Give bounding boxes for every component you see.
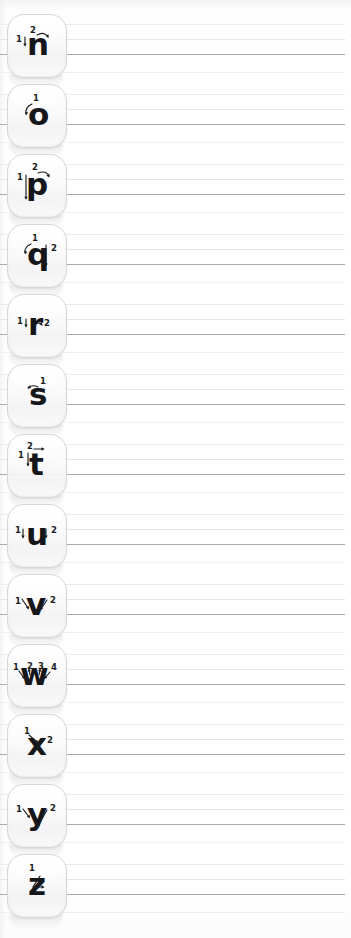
- practice-row-t: t12: [0, 430, 351, 500]
- letter-glyph-t: t12: [7, 434, 65, 496]
- svg-text:1: 1: [15, 596, 21, 606]
- svg-text:1: 1: [15, 525, 21, 535]
- practice-row-u: u12: [0, 500, 351, 570]
- letter-glyph-r: r12: [7, 294, 65, 356]
- svg-text:1: 1: [18, 450, 24, 460]
- svg-text:3: 3: [38, 661, 44, 671]
- practice-row-z: z1: [0, 850, 351, 920]
- practice-row-r: r12: [0, 290, 351, 360]
- svg-text:2: 2: [51, 243, 57, 253]
- svg-text:2: 2: [44, 318, 50, 328]
- practice-row-v: v12: [0, 570, 351, 640]
- svg-text:1: 1: [29, 863, 35, 873]
- letter-glyph-u: u12: [7, 504, 65, 566]
- svg-text:2: 2: [32, 162, 38, 172]
- worksheet-page: n12o1p12q12r12s1t12u12v12w1234x12y12z1: [0, 0, 351, 938]
- svg-text:1: 1: [16, 804, 22, 814]
- practice-row-n: n12: [0, 10, 351, 80]
- svg-text:2: 2: [47, 735, 53, 745]
- practice-row-w: w1234: [0, 640, 351, 710]
- practice-row-s: s1: [0, 360, 351, 430]
- svg-text:1: 1: [33, 93, 39, 103]
- letter-glyph-y: y12: [7, 784, 65, 846]
- letter-glyph-x: x12: [7, 714, 65, 776]
- svg-text:2: 2: [27, 661, 33, 671]
- svg-text:2: 2: [50, 595, 56, 605]
- svg-text:u: u: [26, 516, 48, 552]
- practice-row-y: y12: [0, 780, 351, 850]
- letter-glyph-v: v12: [7, 574, 65, 636]
- practice-row-x: x12: [0, 710, 351, 780]
- svg-text:1: 1: [17, 172, 23, 182]
- practice-row-o: o1: [0, 80, 351, 150]
- svg-text:1: 1: [32, 233, 38, 243]
- svg-text:v: v: [26, 586, 46, 622]
- letter-glyph-o: o1: [7, 84, 65, 146]
- svg-text:t: t: [29, 446, 44, 482]
- letter-glyph-p: p12: [7, 154, 65, 216]
- letter-glyph-z: z1: [7, 854, 65, 916]
- svg-text:1: 1: [17, 316, 23, 326]
- letter-glyph-q: q12: [7, 224, 65, 286]
- svg-text:x: x: [27, 726, 47, 762]
- svg-text:4: 4: [51, 662, 57, 672]
- practice-row-p: p12: [0, 150, 351, 220]
- practice-row-q: q12: [0, 220, 351, 290]
- svg-text:1: 1: [16, 34, 22, 44]
- svg-text:2: 2: [30, 25, 36, 35]
- svg-text:1: 1: [40, 376, 46, 386]
- svg-text:w: w: [20, 656, 49, 692]
- svg-text:2: 2: [27, 441, 33, 451]
- svg-text:2: 2: [50, 803, 56, 813]
- svg-text:1: 1: [13, 662, 19, 672]
- svg-text:2: 2: [51, 525, 57, 535]
- letter-glyph-w: w1234: [7, 644, 65, 706]
- letter-glyph-n: n12: [7, 14, 65, 76]
- letter-glyph-s: s1: [7, 364, 65, 426]
